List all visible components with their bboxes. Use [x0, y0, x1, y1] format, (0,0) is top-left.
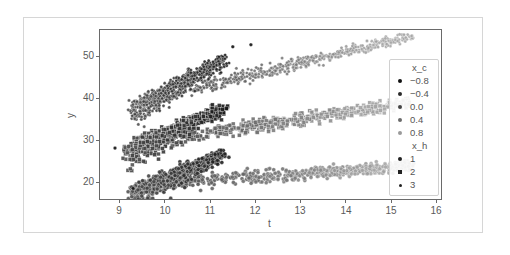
- legend-item-label: 3: [410, 179, 415, 190]
- legend-item-label: 1: [410, 153, 415, 164]
- x-tick-label: 13: [294, 205, 305, 216]
- x-tick-label: 16: [430, 205, 441, 216]
- square-marker-icon: [398, 170, 402, 174]
- circle-marker-icon: [398, 118, 402, 122]
- circle-marker-icon: [398, 79, 402, 83]
- legend-item: 0.8: [390, 127, 440, 139]
- legend-hue-title: x_c: [412, 62, 427, 73]
- circle-marker-icon: [398, 131, 402, 135]
- circle-marker-icon: [398, 105, 402, 109]
- x-axis-label: t: [268, 218, 271, 229]
- legend-item-label: −0.4: [410, 88, 429, 99]
- x-tick-label: 12: [249, 205, 260, 216]
- legend-item-label: −0.8: [410, 75, 429, 86]
- legend-item: 3: [390, 179, 440, 191]
- y-axis-label: y: [65, 113, 76, 118]
- small-circle-marker-icon: [399, 184, 402, 187]
- legend-style-title: x_h: [412, 140, 427, 151]
- x-tick-label: 10: [159, 205, 170, 216]
- legend-item: 1: [390, 153, 440, 165]
- legend-item: 0.0: [390, 101, 440, 113]
- x-tick-label: 15: [385, 205, 396, 216]
- circle-marker-icon: [398, 157, 402, 161]
- legend: x_c −0.8 −0.4 0.0 0.4 0.8x_h 1 2 3: [389, 59, 439, 196]
- legend-item-label: 0.4: [410, 114, 423, 125]
- legend-item: 2: [390, 166, 440, 178]
- legend-item-label: 2: [410, 166, 415, 177]
- x-tick-label: 9: [116, 205, 122, 216]
- legend-item-label: 0.8: [410, 127, 423, 138]
- legend-item: 0.4: [390, 114, 440, 126]
- x-tick-label: 14: [340, 205, 351, 216]
- legend-item-label: 0.0: [410, 101, 423, 112]
- legend-item: −0.4: [390, 88, 440, 100]
- circle-marker-icon: [398, 92, 402, 96]
- legend-item: −0.8: [390, 75, 440, 87]
- x-tick-label: 11: [205, 205, 215, 216]
